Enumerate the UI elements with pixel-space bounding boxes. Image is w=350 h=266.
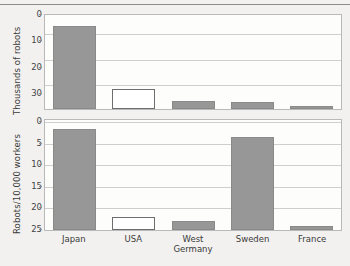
x-label-line1: Sweden xyxy=(223,234,283,244)
y-tick-mark xyxy=(39,229,42,230)
x-label-line1: USA xyxy=(104,234,164,244)
y-tick-mark xyxy=(39,207,42,208)
y-tick-mark xyxy=(39,164,42,165)
y-axis-ticks-top: 0102030 xyxy=(22,8,42,116)
chart-panel-bottom: Robots/10,000 workers 0510152025 xyxy=(0,116,350,236)
x-axis-labels: Japan USA West Germany Sweden France xyxy=(44,234,342,254)
y-tick-mark xyxy=(39,67,42,68)
bar-slot xyxy=(45,15,104,109)
y-tick-mark xyxy=(39,186,42,187)
y-axis-title-top: Thousands of robots xyxy=(12,27,22,115)
bar-group-bottom xyxy=(45,120,341,230)
gridline xyxy=(45,230,341,231)
bar-slot xyxy=(45,120,104,230)
bar-slot xyxy=(282,15,341,109)
bar-west-germany-top xyxy=(172,101,215,109)
x-label-line1: France xyxy=(282,234,342,244)
bar-slot xyxy=(104,15,163,109)
bar-sweden-top xyxy=(231,102,274,109)
bar-japan-bottom xyxy=(53,129,96,231)
bar-slot xyxy=(223,15,282,109)
x-label-usa: USA xyxy=(104,234,164,254)
plot-area-bottom xyxy=(44,119,342,231)
bar-slot xyxy=(282,120,341,230)
bar-france-bottom xyxy=(290,226,333,230)
bar-slot xyxy=(104,120,163,230)
x-label-line1: West xyxy=(163,234,223,244)
bar-slot xyxy=(223,120,282,230)
x-label-japan: Japan xyxy=(44,234,104,254)
chart-panel-top: Thousands of robots 0102030 xyxy=(0,8,350,116)
bar-slot xyxy=(163,120,222,230)
bar-japan-top xyxy=(53,26,96,109)
y-tick-mark xyxy=(39,93,42,94)
x-label-line1: Japan xyxy=(44,234,104,244)
y-tick-mark xyxy=(39,143,42,144)
y-axis-ticks-bottom: 0510152025 xyxy=(22,116,42,236)
x-label-west-germany: West Germany xyxy=(163,234,223,254)
bar-france-top xyxy=(290,106,333,109)
y-tick-mark xyxy=(39,121,42,122)
x-label-line2: Germany xyxy=(163,244,223,254)
figure-root: Thousands of robots 0102030 xyxy=(0,0,350,266)
bar-group-top xyxy=(45,15,341,109)
y-axis-title-bottom: Robots/10,000 workers xyxy=(12,134,22,234)
y-tick-mark xyxy=(39,14,42,15)
bar-sweden-bottom xyxy=(231,137,274,230)
bar-west-germany-bottom xyxy=(172,221,215,230)
bar-slot xyxy=(163,15,222,109)
plot-area-top xyxy=(44,14,342,110)
bar-usa-bottom xyxy=(112,217,155,230)
x-label-sweden: Sweden xyxy=(223,234,283,254)
y-tick-mark xyxy=(39,40,42,41)
bar-usa-top xyxy=(112,89,155,109)
x-label-france: France xyxy=(282,234,342,254)
top-divider-rule xyxy=(0,4,350,5)
